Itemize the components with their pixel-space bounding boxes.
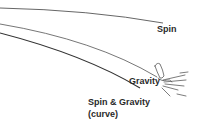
gravity-trajectory-line [0, 24, 157, 77]
spin-trajectory-line [0, 8, 163, 23]
spin-gravity-trajectory-line [0, 33, 140, 88]
gravity-label: Gravity [129, 76, 160, 86]
spin-and-gravity-label: Spin & Gravity [88, 97, 150, 107]
curve-note-label: (curve) [88, 109, 118, 119]
spin-label: Spin [157, 24, 177, 34]
trajectory-diagram: Spin Gravity Spin & Gravity (curve) [0, 0, 198, 123]
